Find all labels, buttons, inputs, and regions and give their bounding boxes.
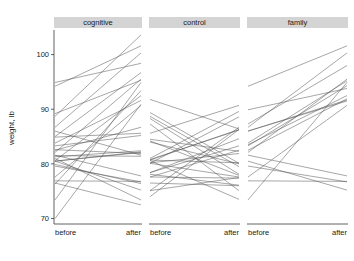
y-tick-label: 90 <box>41 105 49 114</box>
x-tick-label-before: before <box>150 228 171 237</box>
y-tick-label: 70 <box>41 214 49 223</box>
plot-background <box>0 0 354 261</box>
facet-strip-label-cognitive: cognitive <box>83 18 113 27</box>
x-tick-label-before: before <box>248 228 269 237</box>
parallel-coordinates-plot: cognitivecontrolfamily 708090100 beforea… <box>0 0 354 261</box>
x-tick-label-after: after <box>332 228 348 237</box>
facet-strip-label-family: family <box>288 18 308 27</box>
y-tick-label: 100 <box>36 50 49 59</box>
x-tick-label-before: before <box>55 228 76 237</box>
x-tick-label-after: after <box>224 228 240 237</box>
chart-figure: cognitivecontrolfamily 708090100 beforea… <box>0 0 354 261</box>
y-tick-label: 80 <box>41 160 49 169</box>
facet-strip-group: cognitivecontrolfamily <box>54 17 348 28</box>
x-tick-label-after: after <box>126 228 142 237</box>
y-axis-title: weight, lb <box>7 111 16 146</box>
facet-strip-label-control: control <box>183 18 206 27</box>
